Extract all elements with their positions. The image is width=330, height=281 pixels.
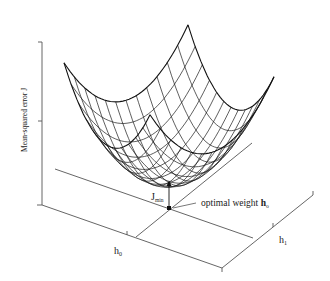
- mesh-line: [105, 100, 191, 186]
- mesh-line: [136, 96, 222, 181]
- y-axis-label: Mean-squared error J: [20, 88, 29, 152]
- mesh-line: [78, 65, 202, 142]
- jmin-arrow: [167, 181, 172, 211]
- mesh-line: [64, 25, 188, 102]
- optimal-weight-label: optimal weight ho: [201, 198, 269, 209]
- optimum-point: [167, 206, 171, 210]
- h0-axis: [42, 205, 222, 272]
- error-surface-figure: Mean-squared error J Jmin optimal weight…: [0, 0, 330, 281]
- h0-label: h0: [114, 245, 122, 257]
- error-surface-mesh: [64, 25, 274, 188]
- jmin-label: Jmin: [151, 191, 164, 203]
- error-surface-diagram: Mean-squared error J Jmin optimal weight…: [0, 0, 330, 281]
- mesh-line: [71, 46, 195, 123]
- h1-label: h1: [279, 234, 287, 246]
- j-axis: [37, 42, 42, 205]
